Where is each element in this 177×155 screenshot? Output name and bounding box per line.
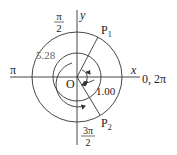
label-p1: P1 [101,23,112,39]
label-origin: O [66,77,75,91]
label-angle-528: 5.28 [36,49,56,61]
label-3pi-half-den: 2 [86,137,91,148]
radius-p1 [77,37,98,77]
label-pi-half-num: π [56,10,62,22]
unit-circle-diagram: π 2 y π x 0, 2π O 5.28 1.00 P1 P2 3π 2 [0,0,177,155]
label-p2: P2 [101,116,112,132]
label-zero-2pi: 0, 2π [142,72,166,86]
angle-pointer [84,80,94,83]
label-3pi-half-num: 3π [83,125,93,136]
label-angle-100: 1.00 [96,85,116,97]
label-x: x [130,63,137,77]
label-pi-half-den: 2 [56,22,62,34]
label-pi: π [10,63,16,77]
label-y: y [79,8,86,22]
